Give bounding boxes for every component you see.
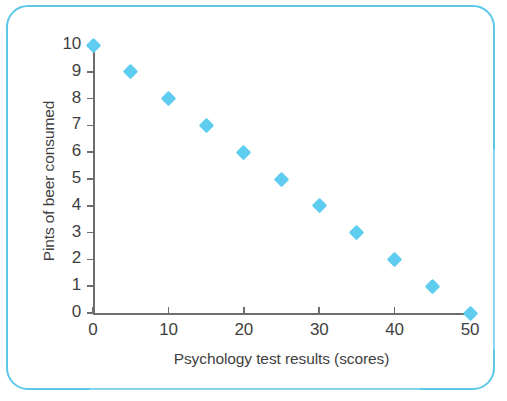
data-point [425, 278, 441, 294]
data-point [161, 91, 177, 107]
data-point [387, 252, 403, 268]
x-tick-mark [92, 307, 94, 314]
y-tick-mark [87, 205, 93, 207]
y-tick-mark [87, 98, 93, 100]
x-tick-mark [243, 307, 245, 314]
x-tick-mark [168, 307, 170, 314]
x-tick-mark [394, 307, 396, 314]
y-tick-mark [87, 178, 93, 180]
x-tick-label: 40 [375, 320, 415, 340]
y-axis-title: Pints of beer consumed [40, 66, 58, 296]
data-point [85, 37, 101, 53]
x-axis-line [93, 313, 470, 315]
x-tick-label: 50 [450, 320, 490, 340]
data-point [462, 305, 478, 321]
data-point [274, 171, 290, 187]
y-tick-mark [87, 285, 93, 287]
y-tick-mark [87, 125, 93, 127]
x-tick-label: 10 [148, 320, 188, 340]
y-tick-mark [87, 151, 93, 153]
y-tick-mark [87, 259, 93, 261]
y-tick-label: 0 [48, 302, 81, 322]
y-axis-line [93, 45, 95, 314]
y-tick-mark [87, 71, 93, 73]
data-point [311, 198, 327, 214]
x-tick-label: 0 [73, 320, 113, 340]
data-point [198, 118, 214, 134]
data-point [349, 225, 365, 241]
x-axis-title: Psychology test results (scores) [93, 350, 470, 368]
y-tick-label: 10 [48, 34, 81, 54]
y-tick-mark [87, 232, 93, 234]
x-tick-label: 20 [224, 320, 264, 340]
y-tick-label-wrap: 10 [48, 34, 81, 54]
scatter-plot: 012345678910 01020304050 Pints of beer c… [0, 0, 507, 401]
x-tick-mark [318, 307, 320, 314]
data-point [236, 144, 252, 160]
y-tick-label-wrap: 0 [48, 302, 81, 322]
x-tick-label: 30 [299, 320, 339, 340]
data-point [123, 64, 139, 80]
